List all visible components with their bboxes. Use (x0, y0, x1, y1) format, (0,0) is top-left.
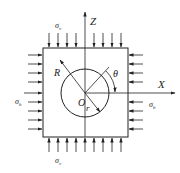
theta-label: θ (113, 68, 118, 79)
right-load-arrows (129, 55, 143, 129)
outer-radius-line (60, 60, 85, 93)
sigma-v-bottom-label: σv (55, 156, 62, 166)
inner-radius-label: r (86, 103, 90, 113)
x-axis-label: X (157, 78, 166, 90)
sigma-v-top-label: σv (55, 21, 62, 31)
bottom-load-arrows (49, 138, 121, 152)
z-axis-label: Z (90, 15, 97, 27)
outer-radius-label: R (53, 67, 60, 78)
sigma-h-left-label: σh (15, 97, 22, 107)
left-load-arrows (24, 55, 42, 129)
stress-diagram: Z X σv σv σh σh R r O θ (0, 0, 180, 173)
center-label: O (78, 97, 85, 108)
sigma-h-right-label: σh (149, 100, 156, 110)
